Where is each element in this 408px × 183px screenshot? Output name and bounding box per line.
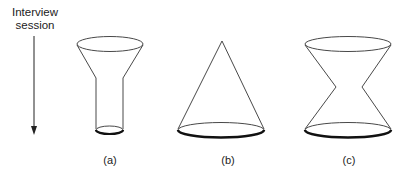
caption-c: (c) (343, 154, 356, 166)
hourglass-shape (305, 37, 391, 138)
caption-a: (a) (103, 154, 116, 166)
caption-b: (b) (221, 154, 234, 166)
cone-shape (178, 41, 264, 138)
down-arrow-icon (31, 36, 37, 135)
funnel-shape (77, 37, 143, 135)
